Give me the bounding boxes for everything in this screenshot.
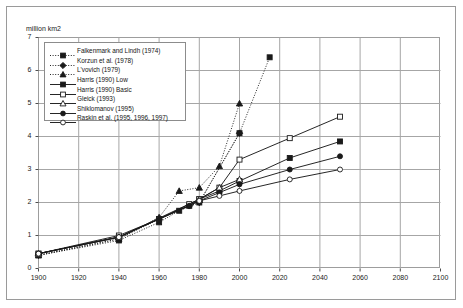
x-tick-label: 2060 [345, 274, 375, 281]
x-tick-label: 1940 [104, 274, 134, 281]
legend-label: Falkenmark and Lindh (1974) [77, 46, 160, 55]
y-tick-label: 2 [16, 198, 32, 205]
legend-label: Korzun et al. (1978) [77, 56, 133, 65]
x-tick-label: 2100 [426, 274, 456, 281]
legend-item[interactable]: Harris (1990) Low [49, 75, 182, 85]
y-tick-label: 6 [16, 66, 32, 73]
legend-item[interactable]: L'vovich (1979) [49, 65, 182, 75]
legend-item[interactable]: Gleick (1993) [49, 94, 182, 104]
legend-label: L'vovich (1979) [77, 65, 120, 74]
legend-marker-filled-circle-icon [49, 104, 77, 113]
legend-marker-filled-square-icon [49, 46, 77, 55]
x-tick-label: 2040 [305, 274, 335, 281]
y-tick-label: 3 [16, 165, 32, 172]
legend-marker-filled-diamond-icon [49, 56, 77, 65]
x-tick-label: 2080 [385, 274, 415, 281]
legend-marker-open-circle-icon [49, 113, 77, 122]
legend-marker-filled-square-icon [49, 75, 77, 84]
x-tick-label: 1960 [144, 274, 174, 281]
y-tick-label: 7 [16, 33, 32, 40]
legend-marker-open-triangle-icon [49, 94, 77, 103]
series-harris-1990-low [36, 139, 343, 256]
chart-figure: million km2 0123456719001920194019601980… [0, 0, 463, 308]
legend-item[interactable]: Raskin et al. (1995, 1996, 1997) [49, 113, 182, 123]
y-tick-label: 4 [16, 132, 32, 139]
legend-marker-open-square-icon [49, 85, 77, 94]
legend-item[interactable]: Korzun et al. (1978) [49, 56, 182, 66]
legend-item[interactable]: Shiklomanov (1995) [49, 104, 182, 114]
x-tick-label: 2000 [225, 274, 255, 281]
legend-label: Shiklomanov (1995) [77, 104, 134, 113]
x-tick-label: 1900 [24, 274, 54, 281]
y-tick-label: 5 [16, 99, 32, 106]
x-tick-label: 1980 [184, 274, 214, 281]
legend-label: Harris (1990) Basic [77, 84, 132, 93]
x-tick-label: 1920 [64, 274, 94, 281]
series-raskin-et-al-1995-1996-1997 [36, 167, 343, 256]
series-gleick-1993 [35, 176, 242, 256]
series-harris-1990-basic [36, 114, 343, 256]
legend-label: Gleick (1993) [77, 94, 115, 103]
x-tick-label: 2020 [265, 274, 295, 281]
legend-item[interactable]: Harris (1990) Basic [49, 84, 182, 94]
legend-label: Harris (1990) Low [77, 75, 128, 84]
legend-item[interactable]: Falkenmark and Lindh (1974) [49, 46, 182, 56]
chart-legend: Falkenmark and Lindh (1974)Korzun et al.… [44, 42, 186, 121]
legend-label: Raskin et al. (1995, 1996, 1997) [77, 113, 168, 122]
y-tick-label: 1 [16, 231, 32, 238]
y-tick-label: 0 [16, 264, 32, 271]
legend-marker-filled-triangle-icon [49, 65, 77, 74]
